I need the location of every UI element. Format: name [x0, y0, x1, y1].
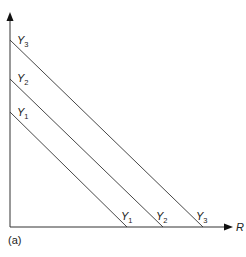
label-y2-left: Y2 [17, 72, 29, 87]
x-axis-label: R [236, 221, 244, 233]
label-y3-left: Y3 [17, 34, 29, 49]
y-axis-arrow-icon [7, 12, 14, 21]
label-y1-left: Y1 [17, 106, 29, 121]
y-axis [7, 12, 14, 227]
line-y1 [10, 112, 127, 227]
line-y3 [10, 40, 203, 227]
label-y2-bottom: Y2 [156, 210, 168, 225]
figure-caption: (a) [8, 234, 21, 246]
diagram-canvas: Y3 Y2 Y1 Y1 Y2 Y3 R (a) [0, 0, 246, 257]
label-y3-bottom: Y3 [196, 210, 208, 225]
x-axis-arrow-icon [224, 224, 233, 231]
x-axis [10, 224, 233, 231]
line-y2 [10, 79, 163, 227]
